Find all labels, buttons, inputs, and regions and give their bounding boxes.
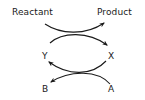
a-label: A	[108, 84, 114, 94]
product-label: Product	[97, 7, 132, 17]
x-label: X	[108, 51, 114, 61]
b-label: B	[42, 84, 48, 94]
coupled-reaction-diagram: Reactant Product Y X B A	[0, 0, 145, 100]
reactant-to-product-arrow	[45, 23, 104, 32]
y-label: Y	[42, 51, 48, 61]
y-to-x-arrow	[50, 35, 107, 45]
x-to-y-arrow	[49, 61, 106, 72]
reactant-label: Reactant	[12, 7, 53, 17]
a-to-b-arrow	[51, 73, 110, 84]
